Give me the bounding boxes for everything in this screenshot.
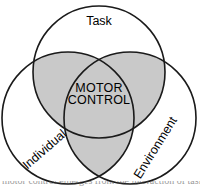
venn-diagram-svg: Task Individual Environment MOTOR CONTRO… [0,0,200,189]
venn-diagram-figure: Task Individual Environment MOTOR CONTRO… [0,0,200,189]
figure-caption-strip: motor control emerges from the interacti… [0,181,200,189]
label-task: Task [86,14,112,28]
center-label-line2: CONTROL [68,93,131,107]
figure-caption-text: motor control emerges from the interacti… [2,181,200,186]
